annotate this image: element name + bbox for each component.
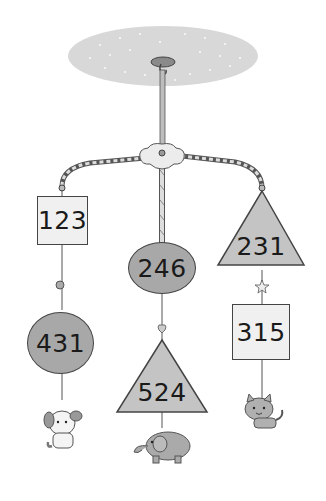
label-524: 524 <box>117 378 207 407</box>
label-431: 431 <box>36 329 85 358</box>
label-231: 231 <box>218 232 304 261</box>
heart-ornament-icon <box>158 325 166 333</box>
elephant-toy-icon <box>134 432 190 463</box>
label-246: 246 <box>137 254 186 283</box>
dog-toy-icon <box>44 411 82 448</box>
circle-shape-431: 431 <box>27 312 94 374</box>
cat-toy-icon <box>245 394 282 428</box>
square-shape-315: 315 <box>232 304 290 360</box>
triangle-label-524: 524 <box>117 378 207 410</box>
bead-ornament-icon <box>56 281 64 289</box>
circle-shape-246: 246 <box>128 242 196 294</box>
square-shape-123: 123 <box>37 196 88 245</box>
label-315: 315 <box>236 318 285 347</box>
center-rod <box>160 70 165 154</box>
flower-hub-icon <box>140 144 185 170</box>
label-123: 123 <box>38 206 87 235</box>
triangle-label-231: 231 <box>218 232 304 264</box>
